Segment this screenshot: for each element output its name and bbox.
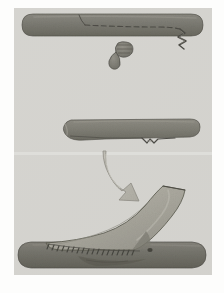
scan-seam-line <box>14 152 212 155</box>
surgical-illustration-canvas <box>0 0 224 293</box>
suture-knot <box>147 248 152 252</box>
figure-root: Surgical flap elevation and inset — thre… <box>0 0 224 293</box>
